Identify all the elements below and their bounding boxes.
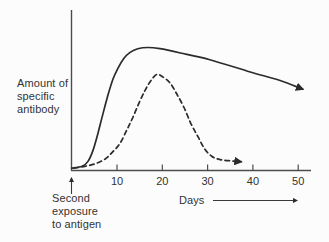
x-tick-label: 40 [247, 175, 259, 187]
annotation-line3: to antigen [52, 218, 101, 231]
x-tick-label: 10 [111, 175, 123, 187]
x-tick-label: 50 [292, 175, 304, 187]
x-axis-ticks: 1020304050 [111, 165, 304, 187]
y-axis-label: Amount of specific antibody [17, 77, 68, 116]
y-axis-label-line3: antibody [17, 103, 68, 116]
x-tick-label: 30 [201, 175, 213, 187]
y-axis-label-line2: specific [17, 90, 68, 103]
x-axis-label: Days [179, 194, 204, 207]
annotation-line1: Second [52, 192, 101, 205]
antibody-response-figure: 1020304050 Amount of specific antibody S… [0, 0, 329, 242]
primary-response-curve [74, 74, 241, 168]
plot-svg: 1020304050 [0, 0, 329, 242]
annotation-line2: exposure [52, 205, 101, 218]
x-tick-label: 20 [156, 175, 168, 187]
secondary-response-curve [72, 48, 303, 169]
second-exposure-annotation: Second exposure to antigen [52, 192, 101, 231]
y-axis-label-line1: Amount of [17, 77, 68, 90]
